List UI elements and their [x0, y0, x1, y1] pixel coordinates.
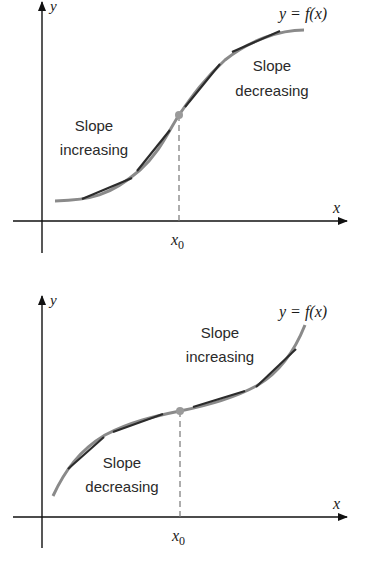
bottom-region-left-line2: decreasing	[85, 478, 158, 495]
bottom-tangent-2	[113, 414, 163, 432]
top-region-right-line2: decreasing	[235, 82, 308, 99]
bottom-function-label: y = f(x)	[277, 303, 327, 321]
bottom-inflection-label: x0	[171, 527, 185, 548]
top-diagram: y x y = f(x) x0 Slope increasing Slope d…	[13, 0, 347, 253]
top-region-right-line1: Slope	[253, 57, 291, 74]
inflection-diagrams: y x y = f(x) x0 Slope increasing Slope d…	[0, 0, 371, 572]
bottom-inflection-point	[176, 407, 184, 415]
top-inflection-point	[175, 111, 183, 119]
bottom-region-right-line1: Slope	[201, 324, 239, 341]
top-region-left-line1: Slope	[75, 117, 113, 134]
top-tangent-1	[82, 178, 132, 199]
top-inflection-label: x0	[170, 231, 184, 252]
bottom-y-axis-label: y	[48, 292, 57, 308]
bottom-region-left-line1: Slope	[103, 454, 141, 471]
bottom-tangent-3	[193, 391, 245, 407]
top-region-left-line2: increasing	[60, 141, 128, 158]
bottom-tangent-1	[68, 437, 104, 469]
top-function-label: y = f(x)	[277, 5, 327, 23]
top-tangent-2	[137, 130, 170, 171]
bottom-tangent-4	[256, 349, 296, 387]
top-y-axis-label: y	[48, 0, 57, 14]
top-x-axis-label: x	[332, 199, 340, 216]
bottom-region-right-line2: increasing	[186, 348, 254, 365]
top-tangent-3	[185, 64, 220, 107]
top-tangent-4	[232, 31, 280, 52]
bottom-diagram: y x y = f(x) x0 Slope increasing Slope d…	[13, 292, 347, 548]
bottom-x-axis-label: x	[332, 495, 340, 512]
